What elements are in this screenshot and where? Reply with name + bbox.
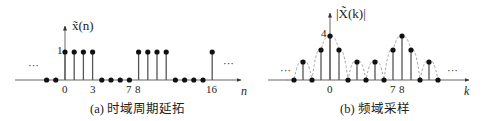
stem-dot [191,77,196,82]
stem-dot [53,77,58,82]
right-ylabel: |X̃(k)| [336,6,366,22]
stem-dot [417,77,422,82]
right-xtick-7: 7 [390,83,396,95]
stem-dot [81,49,86,54]
stem-dot [345,77,350,82]
left-xtick-3: 3 [90,83,96,95]
stem-dot [327,33,332,38]
stem-dot [435,77,440,82]
stem-dot [390,47,395,52]
right-chart [268,13,469,83]
stem-dot [127,77,132,82]
stem-dot [62,49,67,54]
left-xlabel: n [241,84,247,99]
stem-dot [173,77,178,82]
right-xtick-8: 8 [399,83,405,95]
stem-dot [108,77,113,82]
stem-dot [300,59,305,64]
left-ellipsis-left: ··· [28,59,39,71]
stem-dot [200,77,205,82]
left-ylabel: x̃(n) [72,18,94,34]
stem-dot [363,77,368,82]
left-chart [15,26,241,83]
stem-dot [318,47,323,52]
left-xtick-0: 0 [62,83,68,95]
stem-dot [309,77,314,82]
stem-dot [426,59,431,64]
stem-dot [381,77,386,82]
stem-dot [399,33,404,38]
stem-dot [408,47,413,52]
stem-dot [354,59,359,64]
right-caption: (b) 频域采样 [340,98,410,117]
left-xtick-8: 8 [135,83,141,95]
right-ytick-4: 4 [321,27,327,39]
left-xtick-16: 16 [206,83,217,95]
stem-dot [72,49,77,54]
right-ellipsis-left: ··· [280,64,291,76]
stem-dot [372,59,377,64]
left-stems [44,49,215,82]
right-xtick-0: 0 [327,83,333,95]
stem-dot [44,77,49,82]
stem-dot [336,47,341,52]
stem-dot [145,49,150,54]
right-envelope-dashed [286,36,438,80]
right-xlabel: k [464,84,469,99]
stem-dot [164,49,169,54]
left-caption: (a) 时域周期延拓 [90,98,185,117]
left-xtick-7: 7 [126,83,132,95]
stem-dot [136,49,141,54]
stem-dot [118,77,123,82]
stem-dot [90,49,95,54]
stem-dot [210,49,215,54]
stem-dot [99,77,104,82]
left-ytick-1: 1 [57,44,63,56]
stem-dot [182,77,187,82]
stem-dot [291,77,296,82]
left-ellipsis-right: ··· [223,57,234,69]
right-stems [291,33,440,82]
right-ellipsis-right: ··· [447,64,458,76]
stem-dot [154,49,159,54]
